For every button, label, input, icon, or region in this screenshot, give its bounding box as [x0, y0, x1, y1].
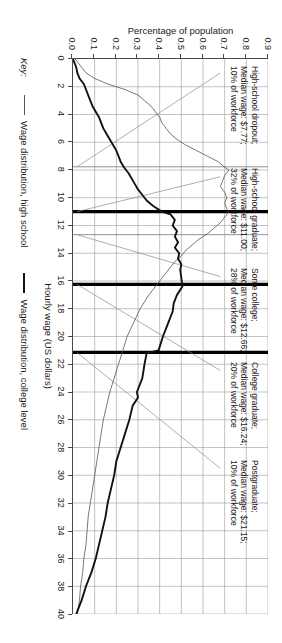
x-tick-mark	[68, 531, 72, 532]
x-tick-mark	[68, 86, 72, 87]
annotation-college-graduate-line3: 20% of workforce	[229, 362, 240, 446]
annotation-hs-dropout-line1: High-school dropout;	[250, 66, 261, 145]
annotation-postgraduate-line3: 10% of workforce	[229, 460, 240, 544]
x-tick-mark	[68, 364, 72, 365]
x-tick-mark	[68, 308, 72, 309]
x-tick-label: 30	[56, 464, 66, 486]
x-tick-label: 32	[56, 492, 66, 514]
x-tick-mark	[68, 253, 72, 254]
x-tick-label: 0	[56, 47, 66, 69]
x-tick-label: 26	[56, 408, 66, 430]
y-tick-mark	[223, 54, 224, 58]
y-tick-label: 0.0	[67, 24, 77, 50]
legend-swatch-high-school-icon	[24, 95, 25, 115]
annotation-college-graduate: College graduate; Median wage: $16.24; 2…	[229, 362, 261, 446]
legend-label-college: Wage distribution, college level	[19, 299, 30, 430]
legend-swatch-college-icon	[24, 273, 26, 293]
y-tick-mark	[115, 54, 116, 58]
x-tick-mark	[68, 197, 72, 198]
x-tick-label: 20	[56, 325, 66, 347]
wage-distribution-chart: 0246810121416182022242628303234363840 0.…	[0, 0, 282, 643]
x-tick-label: 28	[56, 436, 66, 458]
x-tick-label: 24	[56, 381, 66, 403]
annotation-postgraduate: Postgraduate; Median wage: $21.15; 10% o…	[229, 460, 261, 544]
legend-label-high-school: Wage distribution, high school	[19, 121, 30, 247]
y-tick-mark	[245, 54, 246, 58]
legend-key-label: Key:	[19, 58, 30, 77]
x-tick-mark	[68, 58, 72, 59]
annotation-hs-dropout-line2: Median wage: $7.77;	[239, 66, 250, 145]
chart-legend: Key: Wage distribution, high school Wage…	[19, 58, 30, 456]
annotation-college-graduate-line2: Median wage: $16.24;	[239, 362, 250, 446]
x-tick-mark	[68, 225, 72, 226]
x-tick-mark	[68, 503, 72, 504]
x-tick-label: 10	[56, 186, 66, 208]
y-tick-mark	[267, 54, 268, 58]
x-tick-label: 22	[56, 353, 66, 375]
x-tick-mark	[68, 447, 72, 448]
x-tick-mark	[68, 392, 72, 393]
x-tick-label: 36	[56, 547, 66, 569]
legend-entry-college: Wage distribution, college level	[19, 273, 30, 430]
annotation-hs-graduate-line3: 32% of workforce	[229, 168, 240, 251]
x-tick-mark	[68, 558, 72, 559]
annotation-postgraduate-line2: Median wage: $21.15;	[239, 460, 250, 544]
annotation-some-college: Some college; Median wage: $12.66; 28% o…	[229, 268, 261, 352]
x-tick-label: 6	[56, 130, 66, 152]
y-tick-mark	[136, 54, 137, 58]
y-axis-title: Percentage of population	[81, 25, 281, 36]
x-tick-label: 14	[56, 242, 66, 264]
annotation-hs-dropout: High-school dropout; Median wage: $7.77;…	[229, 66, 261, 145]
x-tick-mark	[68, 475, 72, 476]
annotation-some-college-line2: Median wage: $12.66;	[239, 268, 250, 352]
annotation-some-college-line3: 28% of workforce	[229, 268, 240, 352]
y-tick-mark	[180, 54, 181, 58]
x-tick-label: 12	[56, 214, 66, 236]
annotation-hs-graduate: High-school graduate; Median wage: $11.0…	[229, 168, 261, 251]
y-tick-mark	[202, 54, 203, 58]
y-tick-mark	[71, 54, 72, 58]
annotation-hs-graduate-line1: High-school graduate;	[250, 168, 261, 251]
rotated-figure-wrapper: 0246810121416182022242628303234363840 0.…	[0, 0, 282, 643]
x-tick-label: 38	[56, 575, 66, 597]
y-tick-mark	[93, 54, 94, 58]
x-tick-mark	[68, 614, 72, 615]
annotation-leader-lines	[77, 73, 220, 468]
annotation-college-graduate-line1: College graduate;	[250, 362, 261, 446]
annotation-some-college-line1: Some college;	[250, 268, 261, 352]
x-tick-label: 18	[56, 297, 66, 319]
x-tick-mark	[68, 141, 72, 142]
x-tick-mark	[68, 114, 72, 115]
x-tick-mark	[68, 586, 72, 587]
y-tick-mark	[158, 54, 159, 58]
x-tick-label: 8	[56, 158, 66, 180]
x-tick-label: 34	[56, 520, 66, 542]
x-tick-mark	[68, 336, 72, 337]
x-axis-title: Hourly wage (US dollars)	[43, 58, 54, 614]
annotation-hs-graduate-line2: Median wage: $11.00;	[239, 168, 250, 251]
legend-entry-high-school: Wage distribution, high school	[19, 95, 30, 247]
x-tick-mark	[68, 419, 72, 420]
x-tick-mark	[68, 169, 72, 170]
annotation-hs-dropout-line3: 10% of workforce	[229, 66, 240, 145]
annotation-postgraduate-line1: Postgraduate;	[250, 460, 261, 544]
x-tick-label: 4	[56, 103, 66, 125]
x-tick-label: 16	[56, 269, 66, 291]
x-tick-label: 40	[56, 603, 66, 625]
x-tick-mark	[68, 280, 72, 281]
x-tick-label: 2	[56, 75, 66, 97]
